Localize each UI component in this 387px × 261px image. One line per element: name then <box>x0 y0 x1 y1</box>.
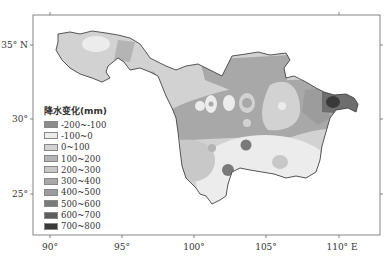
legend-swatch <box>44 144 58 151</box>
legend-item: 100~200 <box>44 153 107 164</box>
x-label-110: 110° E <box>326 242 357 252</box>
x-label-105: 105° <box>255 242 277 252</box>
legend-item: 0~100 <box>44 142 107 153</box>
spot-4-core <box>242 98 252 108</box>
zone-east-darkest <box>326 96 340 108</box>
legend-label: -200~-100 <box>61 120 106 130</box>
spot-9 <box>208 144 216 152</box>
legend-label: 200~300 <box>61 165 101 175</box>
legend-swatch <box>44 178 58 185</box>
legend-label: 300~400 <box>61 176 101 186</box>
legend-item: 400~500 <box>44 187 107 198</box>
legend-swatch <box>44 166 58 173</box>
legend-label: 0~100 <box>61 142 90 152</box>
legend-label: -100~0 <box>61 131 93 141</box>
spot-11 <box>272 155 288 169</box>
legend-item: 500~600 <box>44 198 107 209</box>
spot-3 <box>223 95 235 111</box>
x-label-100: 100° <box>183 242 205 252</box>
legend-swatch <box>44 132 58 139</box>
legend-swatch <box>44 155 58 162</box>
legend-item: 200~300 <box>44 164 107 175</box>
legend-label: 700~800 <box>61 221 101 231</box>
legend-label: 400~500 <box>61 187 101 197</box>
x-label-90: 90° <box>42 242 58 252</box>
y-label-25: 25° <box>12 189 28 199</box>
legend-label: 500~600 <box>61 199 101 209</box>
legend-item: 600~700 <box>44 209 107 220</box>
spot-2-core <box>209 102 214 107</box>
legend-swatch <box>44 200 58 207</box>
legend-item: 300~400 <box>44 175 107 186</box>
legend-swatch <box>44 212 58 219</box>
y-label-35: 35° N <box>1 40 28 50</box>
spot-5 <box>243 119 251 127</box>
legend: 降水变化(mm) -200~-100-100~00~100100~200200~… <box>44 104 107 232</box>
legend-label: 100~200 <box>61 154 101 164</box>
legend-label: 600~700 <box>61 210 101 220</box>
legend-item: 700~800 <box>44 221 107 232</box>
x-label-95: 95° <box>114 242 130 252</box>
legend-item: -200~-100 <box>44 119 107 130</box>
y-label-30: 30° <box>12 114 28 124</box>
zone-nw-light-spot <box>82 36 110 52</box>
legend-swatch <box>44 121 58 128</box>
legend-swatch <box>44 223 58 230</box>
legend-swatch <box>44 189 58 196</box>
spot-1 <box>195 101 205 111</box>
legend-item: -100~0 <box>44 130 107 141</box>
spot-8 <box>241 140 252 151</box>
spot-6 <box>278 102 286 110</box>
legend-title: 降水变化(mm) <box>44 104 107 117</box>
